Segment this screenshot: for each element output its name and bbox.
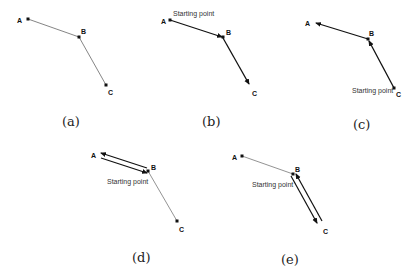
label-b: B: [226, 29, 231, 36]
arrow-ba: [316, 23, 368, 39]
label-b: B: [81, 28, 86, 35]
label-c: C: [179, 226, 184, 233]
label-a: A: [305, 20, 310, 27]
panel-b: A B C Starting point (b): [161, 10, 257, 129]
point-c: [176, 220, 179, 223]
label-c: C: [108, 89, 113, 96]
starting-point-label: Starting point: [107, 178, 148, 186]
arrow-bc: [291, 176, 317, 223]
label-b: B: [151, 164, 156, 171]
caption-a: (a): [62, 114, 80, 129]
arrow-bc: [223, 38, 249, 84]
starting-point-label: Starting point: [352, 87, 393, 95]
segment-bc: [79, 37, 106, 85]
point-a: [169, 19, 172, 22]
label-a: A: [17, 17, 22, 24]
label-a: A: [161, 18, 166, 25]
point-a: [241, 155, 244, 158]
label-c: C: [396, 91, 401, 98]
label-a: A: [232, 154, 237, 161]
arrow-cb: [369, 41, 394, 88]
starting-point-label: Starting point: [173, 10, 214, 18]
point-a: [27, 18, 30, 21]
segment-ab: [242, 156, 293, 174]
label-b: B: [369, 30, 374, 37]
label-c: C: [252, 90, 257, 97]
panel-a: A B C (a): [17, 17, 113, 129]
point-b: [222, 36, 225, 39]
point-b: [367, 38, 370, 41]
arrow-ab: [170, 20, 222, 37]
caption-e: (e): [281, 252, 299, 267]
segment-bc: [148, 171, 177, 221]
figure-canvas: A B C (a) A B C Starting point (b) A B C…: [0, 0, 420, 280]
caption-c: (c): [353, 117, 370, 132]
starting-point-label: Starting point: [252, 181, 293, 189]
caption-b: (b): [202, 114, 220, 129]
panel-e: A B C Starting point (e): [232, 154, 328, 267]
point-c: [105, 84, 108, 87]
caption-d: (d): [132, 250, 150, 265]
panel-d: A B C Starting point (d): [91, 152, 184, 265]
arrow-cb: [296, 174, 322, 221]
label-b: B: [295, 166, 300, 173]
point-b: [78, 36, 81, 39]
label-a: A: [91, 152, 96, 159]
point-b: [147, 170, 150, 173]
segment-ab: [28, 19, 79, 37]
label-c: C: [323, 228, 328, 235]
panel-c: A B C Starting point (c): [305, 20, 401, 132]
